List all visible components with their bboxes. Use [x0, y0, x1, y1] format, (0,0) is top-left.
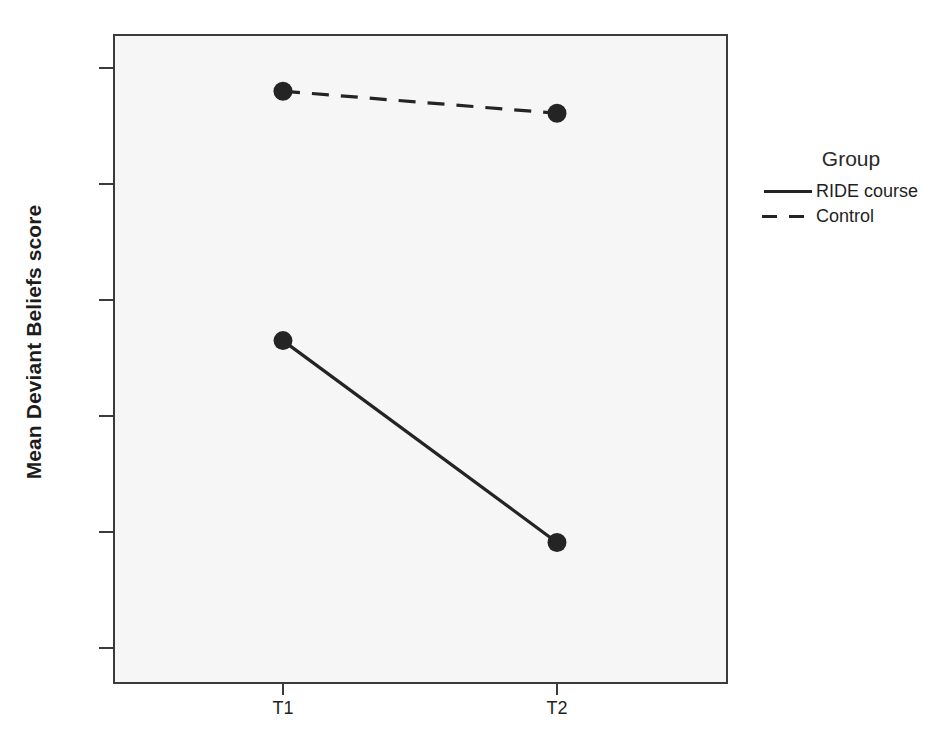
legend-item-control[interactable]: Control — [760, 203, 930, 228]
y-tick-mark — [99, 415, 113, 417]
y-tick-mark — [99, 299, 113, 301]
line-chart-figure: Mean Deviant Beliefs score 26.00 25.00 2… — [0, 0, 933, 753]
x-tick-label: T2 — [517, 698, 597, 719]
y-tick-mark — [99, 531, 113, 533]
legend-item-label: Control — [816, 206, 874, 226]
legend-item-ride-course[interactable]: RIDE course — [760, 178, 930, 203]
y-tick-mark — [99, 647, 113, 649]
legend-items: RIDE course Control — [760, 178, 930, 228]
y-tick-mark — [99, 183, 113, 185]
y-axis-title: Mean Deviant Beliefs score — [22, 82, 46, 602]
legend-item-label: RIDE course — [816, 181, 918, 201]
plot-area — [113, 34, 728, 684]
y-tick-mark — [99, 67, 113, 69]
x-tick-mark — [282, 684, 284, 695]
x-tick-label: T1 — [243, 698, 323, 719]
x-tick-mark — [556, 684, 558, 695]
legend-title: Group — [776, 146, 926, 172]
solid-line-key-icon — [760, 182, 816, 200]
dashed-line-key-icon — [760, 207, 816, 225]
legend: Group RIDE course Control — [760, 146, 930, 228]
